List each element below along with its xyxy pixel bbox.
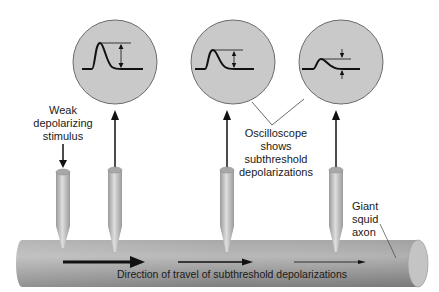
oscilloscope-3	[299, 20, 383, 104]
stimulus-label: Weak depolarizing stimulus	[32, 104, 94, 143]
recording-electrode-1	[108, 110, 122, 252]
diagram-canvas	[0, 0, 439, 292]
oscilloscope-label: Oscilloscope shows subthreshold depolari…	[236, 127, 316, 179]
axon-label: Giant squid axon	[352, 200, 388, 239]
oscilloscope-1	[73, 20, 157, 104]
oscilloscope-2	[191, 20, 275, 104]
axon-cut-end	[408, 240, 428, 287]
direction-label: Direction of travel of subthreshold depo…	[112, 268, 352, 281]
recording-electrode-3	[329, 110, 343, 252]
stimulating-electrode	[56, 144, 70, 248]
oscilloscope-callout-lines	[252, 99, 304, 125]
recording-electrode-2	[220, 110, 234, 252]
